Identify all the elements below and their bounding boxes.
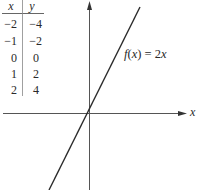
function-equals: = 2 bbox=[141, 47, 161, 61]
function-rhs-variable: x bbox=[161, 47, 167, 61]
function-line bbox=[49, 7, 140, 190]
x-axis-arrow-icon bbox=[178, 111, 187, 116]
graph-canvas bbox=[0, 0, 197, 190]
y-axis-arrow-icon bbox=[87, 1, 92, 10]
x-axis-label: x bbox=[190, 105, 195, 120]
function-label: f(x) = 2x bbox=[124, 47, 167, 62]
